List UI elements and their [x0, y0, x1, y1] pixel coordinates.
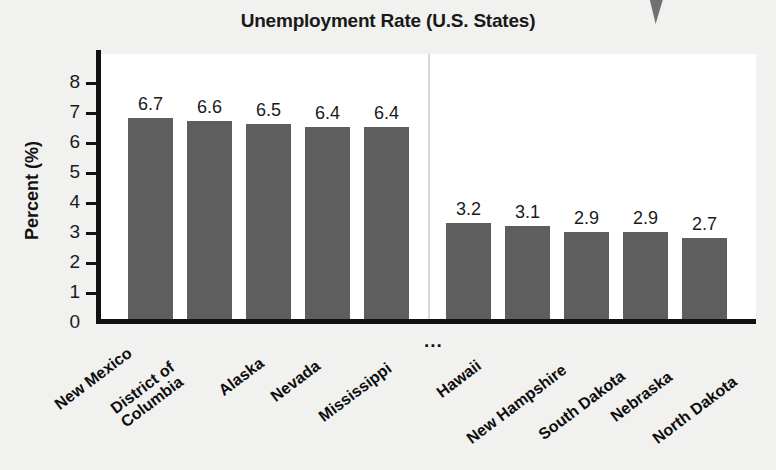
ellipsis-marker: ...	[424, 330, 443, 352]
bar-value-label: 2.7	[682, 214, 727, 235]
bar-value-label: 2.9	[564, 208, 609, 229]
y-tick-mark	[86, 262, 97, 265]
bar-value-label: 6.6	[187, 97, 232, 118]
x-axis-line	[96, 319, 756, 324]
y-tick-label: 5	[50, 161, 80, 183]
bar-north-dakota[interactable]	[682, 238, 727, 319]
bar-value-label: 3.2	[446, 199, 491, 220]
bar-chart-figure: Unemployment Rate (U.S. States) Percent …	[0, 0, 776, 470]
bar-south-dakota[interactable]	[564, 232, 609, 319]
y-tick-mark	[86, 232, 97, 235]
y-tick-label: 1	[50, 281, 80, 303]
y-tick-label: 6	[50, 131, 80, 153]
group-divider	[428, 54, 430, 322]
bar-value-label: 6.4	[305, 103, 350, 124]
y-tick-label: 4	[50, 191, 80, 213]
y-tick-label: 2	[50, 251, 80, 273]
category-label-hawaii: Hawaii	[434, 357, 485, 401]
y-axis-title: Percent (%)	[22, 111, 43, 271]
y-tick-label: 7	[50, 101, 80, 123]
bar-alaska[interactable]	[246, 124, 291, 319]
bar-hawaii[interactable]	[446, 223, 491, 319]
y-tick-mark	[86, 142, 97, 145]
y-tick-label: 8	[50, 71, 80, 93]
y-tick-mark	[86, 292, 97, 295]
bar-new-hampshire[interactable]	[505, 226, 550, 319]
bar-value-label: 6.5	[246, 100, 291, 121]
y-tick-mark	[86, 82, 97, 85]
bar-value-label: 3.1	[505, 202, 550, 223]
bar-value-label: 6.4	[364, 103, 409, 124]
chart-title: Unemployment Rate (U.S. States)	[0, 10, 776, 32]
bar-value-label: 6.7	[128, 94, 173, 115]
category-label-nevada: Nevada	[268, 358, 324, 406]
y-tick-mark	[86, 202, 97, 205]
bar-new-mexico[interactable]	[128, 118, 173, 319]
category-label-alaska: Alaska	[216, 355, 267, 399]
y-tick-label: 0	[50, 311, 80, 333]
y-tick-label: 3	[50, 221, 80, 243]
category-label-mississippi: Mississippi	[316, 360, 395, 425]
bar-district-of-columbia[interactable]	[187, 121, 232, 319]
y-axis-line	[96, 50, 101, 324]
bar-nevada[interactable]	[305, 127, 350, 319]
bar-value-label: 2.9	[623, 208, 668, 229]
y-tick-mark	[86, 172, 97, 175]
y-tick-mark	[86, 112, 97, 115]
bar-nebraska[interactable]	[623, 232, 668, 319]
bar-mississippi[interactable]	[364, 127, 409, 319]
